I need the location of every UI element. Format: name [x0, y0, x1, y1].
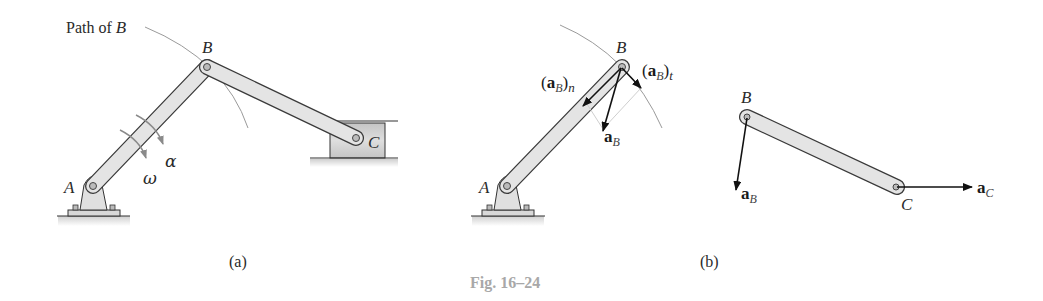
vector-aB2-arrow-icon — [736, 118, 747, 190]
alpha-label: α — [165, 151, 177, 171]
vector-aB2-label: aB — [741, 184, 758, 206]
point-b-label-b: B — [616, 38, 627, 57]
point-b-label-free: B — [741, 88, 752, 107]
panel-a: Path of B ω — [57, 18, 398, 271]
pin-c — [353, 135, 360, 142]
vector-aB-n-label: (aB)n — [541, 73, 575, 95]
point-c-label-free: C — [901, 195, 913, 214]
point-a-label: A — [63, 178, 75, 197]
figure-caption: Fig. 16–24 — [470, 274, 540, 292]
panel-b-link-ab: A B (aB)n (aB)t aB — [471, 25, 673, 226]
link-bc — [207, 67, 398, 167]
omega-label: ω — [143, 168, 157, 188]
vector-aB-label: aB — [604, 127, 621, 149]
point-b-label: B — [202, 38, 213, 57]
pin-a-b — [504, 183, 511, 190]
path-of-b-label: Path of B — [66, 18, 127, 37]
point-c-label: C — [368, 133, 380, 152]
vector-aB-t-label: (aB)t — [642, 61, 673, 83]
figure-canvas: Path of B ω — [0, 0, 1043, 301]
panel-b-label: (b) — [700, 253, 719, 271]
vector-aC-label: aC — [977, 178, 995, 200]
panel-a-label: (a) — [229, 253, 247, 271]
vector-aB-t-arrow-icon — [622, 68, 641, 88]
point-a-label-b: A — [478, 178, 490, 197]
pin-a — [90, 183, 97, 190]
pin-b — [204, 64, 211, 71]
panel-b-link-bc: B C aB aC (b) — [700, 88, 995, 271]
